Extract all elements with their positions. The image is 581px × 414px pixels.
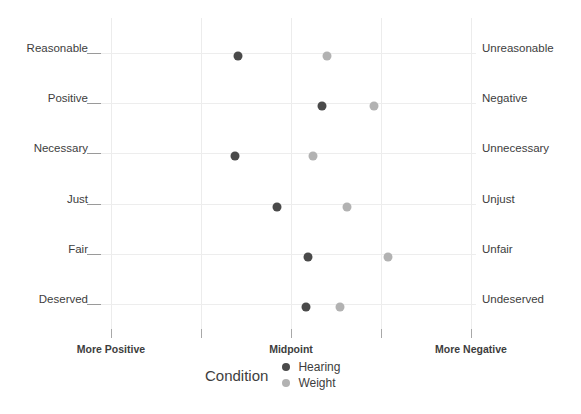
- data-point: [302, 303, 311, 312]
- legend-item[interactable]: Weight: [282, 376, 340, 390]
- data-point: [342, 203, 351, 212]
- row-label-right: Negative: [482, 92, 527, 104]
- horizontal-gridline: [95, 204, 476, 205]
- horizontal-gridline: [95, 254, 476, 255]
- legend: Condition HearingWeight: [205, 360, 340, 390]
- x-axis-tick: [381, 329, 382, 338]
- row-tick: [87, 53, 101, 54]
- data-point: [317, 102, 326, 111]
- horizontal-gridline: [95, 304, 476, 305]
- legend-item-label: Hearing: [298, 360, 340, 374]
- row-label-left: Necessary: [34, 142, 88, 154]
- x-axis-tick-label: Midpoint: [269, 343, 313, 355]
- horizontal-gridline: [95, 153, 476, 154]
- x-axis-tick: [201, 329, 202, 338]
- scatter-chart: ReasonablePositiveNecessaryJustFairDeser…: [0, 0, 581, 414]
- row-tick: [87, 304, 101, 305]
- row-tick: [87, 103, 101, 104]
- row-label-left: Just: [67, 193, 88, 205]
- horizontal-gridline: [95, 53, 476, 54]
- vertical-gridline: [291, 18, 292, 336]
- x-axis-tick-label: More Negative: [435, 343, 507, 355]
- row-label-left: Deserved: [39, 293, 88, 305]
- data-point: [304, 253, 313, 262]
- vertical-gridline: [471, 18, 472, 336]
- vertical-gridline: [201, 18, 202, 336]
- row-tick: [87, 204, 101, 205]
- legend-swatch-icon: [282, 379, 290, 387]
- data-point: [231, 152, 240, 161]
- data-point: [369, 102, 378, 111]
- legend-title: Condition: [205, 367, 268, 384]
- row-label-left: Reasonable: [27, 42, 88, 54]
- x-axis-tick: [471, 329, 472, 338]
- row-tick: [87, 254, 101, 255]
- row-label-left: Fair: [68, 243, 88, 255]
- row-label-right: Unfair: [482, 243, 513, 255]
- legend-swatch-icon: [282, 363, 290, 371]
- row-label-right: Undeserved: [482, 293, 544, 305]
- x-axis-tick-label: More Positive: [77, 343, 145, 355]
- data-point: [233, 52, 242, 61]
- x-axis-tick: [111, 329, 112, 338]
- row-tick: [87, 153, 101, 154]
- data-point: [384, 253, 393, 262]
- data-point: [272, 203, 281, 212]
- row-label-right: Unjust: [482, 193, 515, 205]
- row-label-right: Unnecessary: [482, 142, 549, 154]
- legend-item-label: Weight: [298, 376, 335, 390]
- row-label-left: Positive: [48, 92, 88, 104]
- row-label-right: Unreasonable: [482, 42, 554, 54]
- left-axis-labels: ReasonablePositiveNecessaryJustFairDeser…: [0, 0, 88, 414]
- horizontal-gridline: [95, 103, 476, 104]
- vertical-gridline: [381, 18, 382, 336]
- data-point: [308, 152, 317, 161]
- legend-item[interactable]: Hearing: [282, 360, 340, 374]
- data-point: [323, 52, 332, 61]
- data-point: [335, 303, 344, 312]
- legend-items: HearingWeight: [282, 360, 340, 390]
- plot-area: [95, 18, 476, 336]
- vertical-gridline: [111, 18, 112, 336]
- x-axis-tick: [291, 329, 292, 338]
